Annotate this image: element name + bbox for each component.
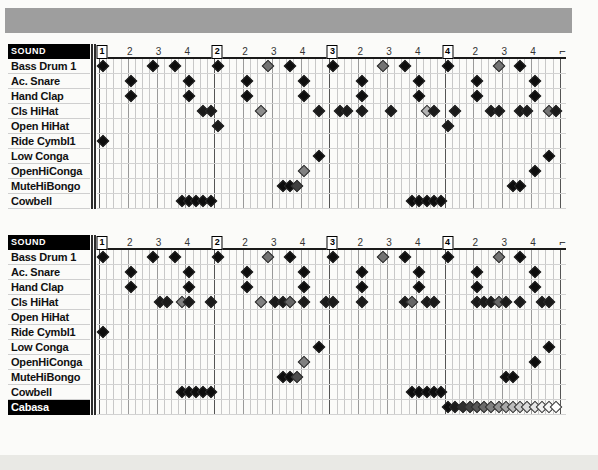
note-diamond[interactable] [471, 281, 484, 294]
note-diamond[interactable] [240, 75, 253, 88]
note-diamond[interactable] [240, 90, 253, 103]
note-row[interactable] [97, 74, 566, 89]
sound-label-bass-drum-1[interactable]: Bass Drum 1 [8, 250, 90, 265]
sound-label-cls-hihat[interactable]: Cls HiHat [8, 104, 90, 119]
note-diamond[interactable] [341, 105, 354, 118]
pattern-2-note-rows[interactable] [97, 250, 566, 415]
note-diamond[interactable] [125, 90, 138, 103]
note-diamond[interactable] [442, 60, 455, 73]
note-diamond[interactable] [528, 90, 541, 103]
sound-label-open-hihat[interactable]: Open HiHat [8, 119, 90, 134]
note-diamond[interactable] [528, 266, 541, 279]
note-row[interactable] [97, 265, 566, 280]
note-row[interactable] [97, 250, 566, 265]
note-diamond[interactable] [298, 281, 311, 294]
bar-marker-2[interactable]: 2 [212, 45, 223, 59]
sound-label-ac-snare[interactable]: Ac. Snare [8, 74, 90, 89]
note-diamond[interactable] [125, 266, 138, 279]
note-diamond[interactable] [183, 266, 196, 279]
note-diamond[interactable] [283, 251, 296, 264]
note-diamond[interactable] [377, 251, 390, 264]
note-diamond[interactable] [183, 75, 196, 88]
sound-label-mutehibongo[interactable]: MuteHiBongo [8, 179, 90, 194]
note-diamond[interactable] [327, 251, 340, 264]
note-diamond[interactable] [413, 266, 426, 279]
sound-label-openhiconga[interactable]: OpenHiConga [8, 355, 90, 370]
note-diamond[interactable] [413, 281, 426, 294]
note-diamond[interactable] [283, 60, 296, 73]
sound-label-hand-clap[interactable]: Hand Clap [8, 280, 90, 295]
note-diamond[interactable] [471, 266, 484, 279]
note-diamond[interactable] [183, 90, 196, 103]
note-diamond[interactable] [204, 105, 217, 118]
note-diamond[interactable] [521, 105, 534, 118]
note-diamond[interactable] [168, 60, 181, 73]
note-diamond[interactable] [96, 251, 109, 264]
note-row[interactable] [97, 164, 566, 179]
note-diamond[interactable] [211, 120, 224, 133]
sound-label-cls-hihat[interactable]: Cls HiHat [8, 295, 90, 310]
note-diamond[interactable] [183, 281, 196, 294]
note-diamond[interactable] [168, 251, 181, 264]
note-diamond[interactable] [543, 341, 556, 354]
pattern-2-note-sheet[interactable]: 1234223432344234⌐ [97, 235, 566, 415]
bar-marker-1[interactable]: 1 [96, 45, 107, 59]
note-row[interactable] [97, 340, 566, 355]
note-diamond[interactable] [147, 251, 160, 264]
note-diamond[interactable] [413, 75, 426, 88]
note-row[interactable] [97, 295, 566, 310]
note-diamond[interactable] [211, 60, 224, 73]
note-diamond[interactable] [204, 195, 217, 208]
bar-marker-4[interactable]: 4 [442, 45, 453, 59]
note-row[interactable] [97, 385, 566, 400]
note-diamond[interactable] [492, 251, 505, 264]
note-diamond[interactable] [240, 266, 253, 279]
note-diamond[interactable] [298, 266, 311, 279]
note-diamond[interactable] [161, 296, 174, 309]
note-diamond[interactable] [442, 120, 455, 133]
note-row[interactable] [97, 104, 566, 119]
note-diamond[interactable] [312, 150, 325, 163]
note-diamond[interactable] [471, 90, 484, 103]
note-row[interactable] [97, 400, 566, 415]
note-row[interactable] [97, 119, 566, 134]
note-diamond[interactable] [355, 75, 368, 88]
sound-label-bass-drum-1[interactable]: Bass Drum 1 [8, 59, 90, 74]
note-diamond[interactable] [355, 296, 368, 309]
note-diamond[interactable] [298, 165, 311, 178]
note-diamond[interactable] [399, 60, 412, 73]
sound-label-cowbell[interactable]: Cowbell [8, 385, 90, 400]
note-row[interactable] [97, 370, 566, 385]
note-diamond[interactable] [399, 251, 412, 264]
note-diamond[interactable] [442, 251, 455, 264]
note-diamond[interactable] [492, 60, 505, 73]
note-diamond[interactable] [96, 60, 109, 73]
note-diamond[interactable] [262, 251, 275, 264]
note-diamond[interactable] [449, 105, 462, 118]
bar-marker-3[interactable]: 3 [327, 236, 338, 250]
note-diamond[interactable] [125, 75, 138, 88]
note-diamond[interactable] [528, 165, 541, 178]
note-diamond[interactable] [96, 326, 109, 339]
note-diamond[interactable] [514, 251, 527, 264]
note-diamond[interactable] [312, 105, 325, 118]
note-diamond[interactable] [528, 356, 541, 369]
note-diamond[interactable] [514, 296, 527, 309]
sound-label-open-hihat[interactable]: Open HiHat [8, 310, 90, 325]
note-diamond[interactable] [514, 60, 527, 73]
note-diamond[interactable] [298, 75, 311, 88]
pattern-1-note-sheet[interactable]: 1234223432344234⌐ [97, 44, 566, 209]
bar-marker-4[interactable]: 4 [442, 236, 453, 250]
note-diamond[interactable] [355, 90, 368, 103]
note-diamond[interactable] [204, 386, 217, 399]
note-diamond[interactable] [96, 135, 109, 148]
note-row[interactable] [97, 325, 566, 340]
note-row[interactable] [97, 280, 566, 295]
note-diamond[interactable] [255, 296, 268, 309]
note-row[interactable] [97, 194, 566, 209]
note-diamond[interactable] [492, 105, 505, 118]
sound-label-hand-clap[interactable]: Hand Clap [8, 89, 90, 104]
bar-marker-3[interactable]: 3 [327, 45, 338, 59]
note-row[interactable] [97, 89, 566, 104]
note-diamond[interactable] [204, 296, 217, 309]
